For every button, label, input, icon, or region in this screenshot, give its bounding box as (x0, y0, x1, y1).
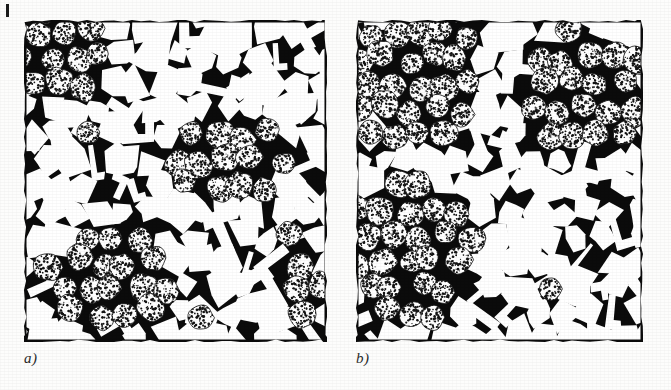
panel-b-label: b) (356, 350, 370, 367)
panel-a-label: a) (24, 350, 38, 367)
panel-a (24, 20, 327, 342)
figure-root: a) b) (0, 0, 671, 390)
page-corner-tick-mark (6, 4, 9, 17)
panel-b-microstructure-image (356, 20, 643, 342)
panel-b (356, 20, 643, 342)
panel-a-microstructure-image (24, 20, 327, 342)
